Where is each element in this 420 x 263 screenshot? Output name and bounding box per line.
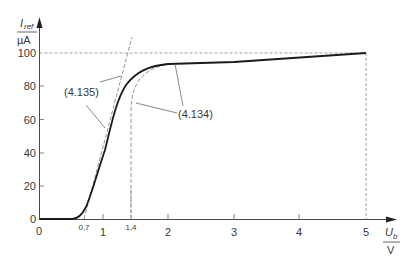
leader-4134-a <box>136 103 177 113</box>
annotation-4134: (4.134) <box>178 108 213 120</box>
svg-text:U: U <box>385 226 393 238</box>
svg-text:ref: ref <box>24 22 34 31</box>
y-axis-arrow-icon <box>37 17 43 28</box>
x-tick-labels: 0 0,7 1 1,4 2 3 4 5 <box>36 223 369 238</box>
leader-4135-b <box>86 105 105 128</box>
svg-text:20: 20 <box>24 180 36 192</box>
main-curve <box>40 53 367 219</box>
y-tick-labels: 0 20 40 60 80 100 <box>18 47 36 225</box>
svg-text:60: 60 <box>24 114 36 126</box>
svg-text:0,7: 0,7 <box>78 223 90 232</box>
svg-text:0: 0 <box>30 213 36 225</box>
svg-text:µA: µA <box>17 34 31 46</box>
svg-text:40: 40 <box>24 147 36 159</box>
curve-4134 <box>131 64 170 219</box>
svg-text:V: V <box>387 244 395 256</box>
y-axis-title: I ref µA <box>17 17 37 46</box>
svg-text:1: 1 <box>100 226 106 238</box>
leader-4134-b <box>175 64 183 106</box>
svg-text:3: 3 <box>231 226 237 238</box>
svg-text:100: 100 <box>18 47 36 59</box>
x-axis-title: U b V <box>383 226 400 256</box>
svg-text:0: 0 <box>36 225 42 237</box>
x-axis-arrow-icon <box>386 217 397 223</box>
leader-4135-a <box>100 76 121 82</box>
svg-text:1,4: 1,4 <box>125 223 137 232</box>
y-ticks <box>40 86 45 186</box>
x-ticks <box>103 214 299 220</box>
chart: (4.135) (4.134) 0 20 40 60 80 100 0 0,7 … <box>0 0 420 263</box>
annotation-4135: (4.135) <box>64 86 99 98</box>
svg-text:4: 4 <box>296 226 302 238</box>
svg-text:5: 5 <box>363 226 369 238</box>
svg-text:b: b <box>393 232 398 241</box>
svg-text:2: 2 <box>165 226 171 238</box>
svg-text:80: 80 <box>24 80 36 92</box>
svg-text:I: I <box>20 17 23 29</box>
